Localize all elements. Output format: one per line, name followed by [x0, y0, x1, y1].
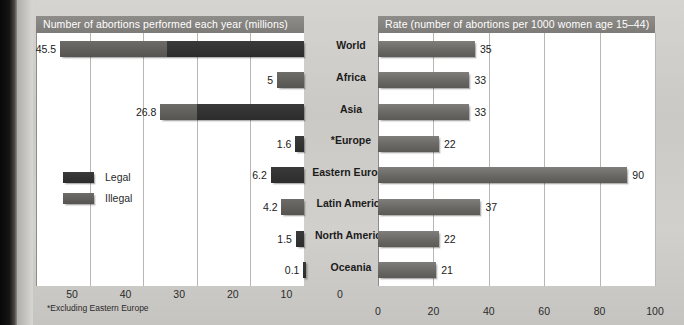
bar-value-label: 26.8 [136, 106, 156, 118]
bar-value-label: 6.2 [252, 169, 267, 181]
bar-segment-legal [295, 136, 304, 152]
bar [378, 167, 627, 183]
left-chart-title: Number of abortions performed each year … [36, 16, 304, 33]
x-axis-tick: 20 [227, 288, 239, 300]
bar-segment-illegal [277, 72, 304, 88]
x-axis-tick: 10 [281, 288, 293, 300]
footnote-text: *Excluding Eastern Europe [47, 303, 149, 313]
gridline [250, 33, 251, 286]
bar [378, 41, 475, 57]
bar-value-label: 21 [441, 264, 453, 276]
bar-segment-legal [271, 167, 304, 183]
bar [295, 136, 304, 152]
bar [378, 231, 439, 247]
gridline [197, 33, 198, 286]
bar-value-label: 37 [485, 201, 497, 213]
bar-value-label: 33 [474, 74, 486, 86]
bar-segment-legal [197, 104, 304, 120]
scan-gutter-light [17, 0, 33, 325]
bar-segment-illegal [160, 104, 196, 120]
bar-segment-illegal [60, 41, 167, 57]
bar [378, 72, 469, 88]
left-chart-panel: Number of abortions performed each year … [36, 16, 304, 302]
bar-segment-illegal [281, 199, 304, 215]
axis-line [36, 33, 37, 286]
x-axis-tick: 30 [173, 288, 185, 300]
x-axis-tick: 20 [428, 305, 440, 317]
bar-value-label: 35 [480, 43, 492, 55]
legend-swatch [63, 172, 94, 183]
right-chart-panel: Rate (number of abortions per 1000 women… [378, 16, 655, 302]
gridline [143, 33, 144, 286]
bar-value-label: 4.2 [263, 201, 278, 213]
bar-value-label: 45.5 [36, 43, 56, 55]
x-axis-tick: 40 [483, 305, 495, 317]
bar-value-label: 1.5 [277, 233, 292, 245]
bar-value-label: 0.1 [285, 264, 300, 276]
bar [60, 41, 304, 57]
gridline [544, 33, 545, 286]
left-plot-area [36, 33, 304, 286]
legend-label: Illegal [105, 191, 132, 206]
x-axis-tick: 0 [375, 305, 381, 317]
x-axis-tick: 60 [538, 305, 550, 317]
bar-segment-legal [167, 41, 304, 57]
x-axis-tick: 80 [594, 305, 606, 317]
axis-line [378, 33, 379, 286]
bar-value-label: 22 [444, 233, 456, 245]
bar [378, 199, 480, 215]
bar [378, 136, 439, 152]
bar [271, 167, 304, 183]
gridline [433, 33, 434, 286]
gridline [600, 33, 601, 286]
legend-swatch [63, 193, 94, 204]
bar [277, 72, 304, 88]
bar-value-label: 1.6 [277, 138, 292, 150]
bar [160, 104, 304, 120]
bar-segment-legal [296, 231, 304, 247]
right-plot-area [378, 33, 655, 286]
bar-value-label: 33 [474, 106, 486, 118]
bar [378, 104, 469, 120]
bar-value-label: 90 [632, 169, 644, 181]
bar [281, 199, 304, 215]
gridline [90, 33, 91, 286]
x-axis-tick: 50 [66, 288, 78, 300]
bar-value-label: 22 [444, 138, 456, 150]
bar [378, 262, 436, 278]
legend-label: Legal [105, 170, 131, 185]
gridline [655, 33, 656, 286]
right-chart-title: Rate (number of abortions per 1000 women… [378, 16, 655, 33]
x-axis-tick: 40 [120, 288, 132, 300]
x-axis-tick: 100 [646, 305, 664, 317]
scan-gutter-shadow [0, 0, 17, 325]
bar [296, 231, 304, 247]
bar-value-label: 5 [267, 74, 273, 86]
gridline [489, 33, 490, 286]
